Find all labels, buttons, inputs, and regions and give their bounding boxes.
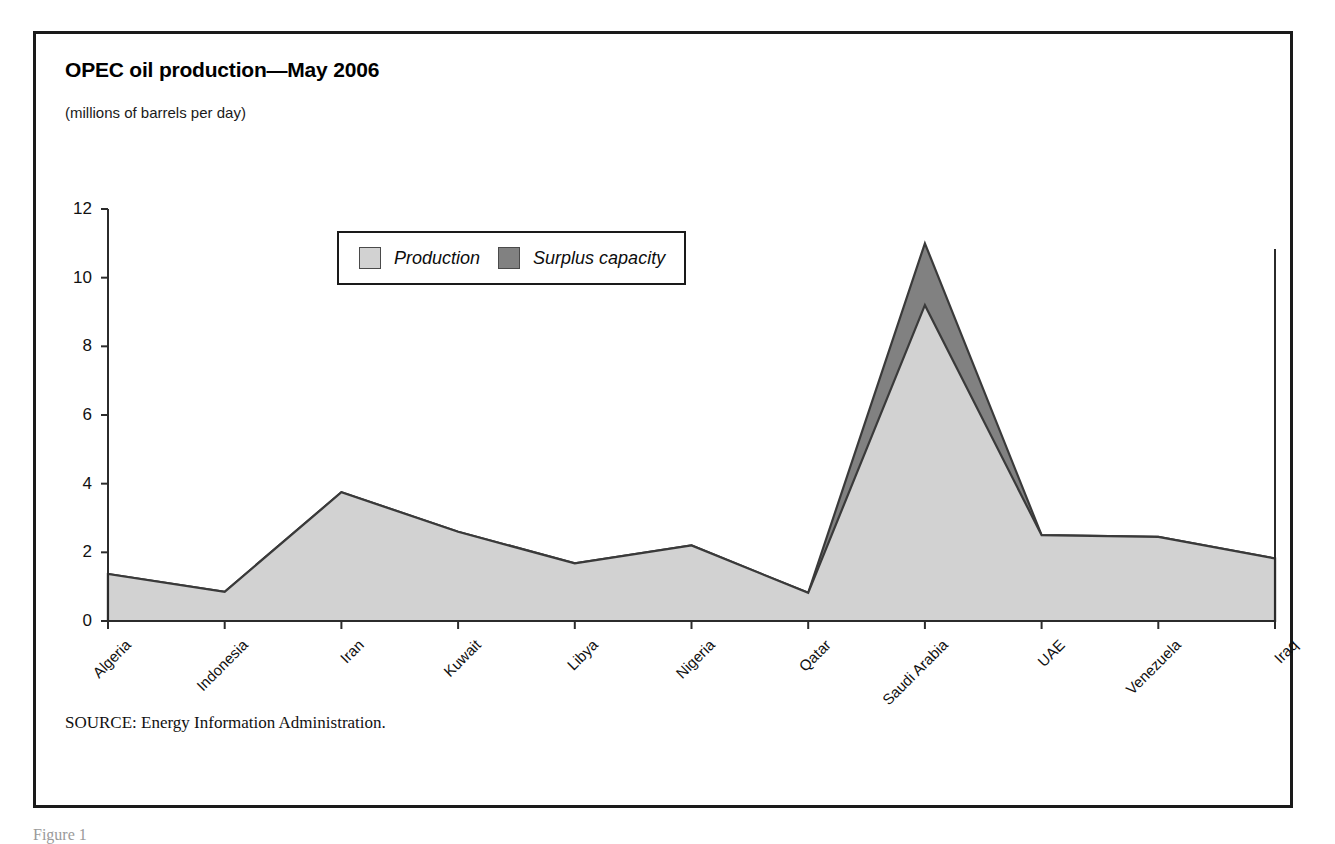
y-tick-label: 10 — [58, 268, 92, 288]
figure-frame: OPEC oil production—May 2006 (millions o… — [33, 31, 1293, 808]
legend-item-production: Production — [359, 247, 480, 269]
y-tick-label: 6 — [58, 405, 92, 425]
y-tick-label: 4 — [58, 474, 92, 494]
area-production — [108, 305, 1275, 621]
y-tick-label: 0 — [58, 611, 92, 631]
legend-label-production: Production — [394, 248, 480, 269]
legend-swatch-surplus-capacity — [498, 247, 520, 269]
y-tick-label: 2 — [58, 542, 92, 562]
chart-legend: Production Surplus capacity — [337, 231, 686, 285]
source-note: SOURCE: Energy Information Administratio… — [65, 713, 386, 733]
y-tick-label: 12 — [58, 199, 92, 219]
plot-area: 024681012AlgeriaIndonesiaIranKuwaitLibya… — [36, 34, 1296, 811]
source-text: Energy Information Administration. — [141, 713, 386, 732]
source-label: SOURCE: — [65, 713, 137, 732]
y-tick-label: 8 — [58, 336, 92, 356]
legend-swatch-production — [359, 247, 381, 269]
legend-label-surplus-capacity: Surplus capacity — [533, 248, 665, 269]
figure-caption: Figure 1 — [33, 826, 87, 844]
legend-item-surplus-capacity: Surplus capacity — [498, 247, 665, 269]
